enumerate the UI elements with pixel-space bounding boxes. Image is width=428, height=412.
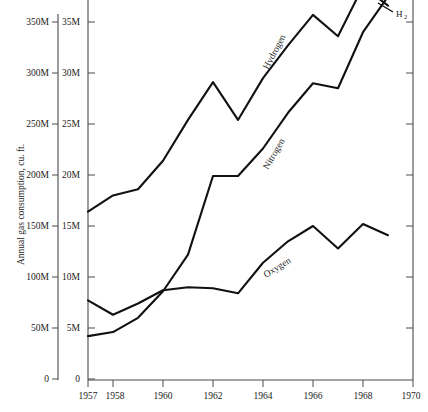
far-right-axis bbox=[406, 0, 413, 380]
left-tick-label-300M: 300M bbox=[26, 68, 49, 78]
x-tick-label-1970: 1970 bbox=[402, 391, 421, 401]
right-value-axis: 0 5M 10M 15M 20M 25M 30M 35M bbox=[62, 0, 95, 384]
gas-consumption-line-chart: 0 50M 100M 150M 200M 250M 300M 350M Annu… bbox=[0, 0, 428, 412]
x-tick-label-1964: 1964 bbox=[254, 391, 273, 401]
right-tick-label-35M: 35M bbox=[62, 17, 81, 27]
series-label-nitrogen: Nitrogen bbox=[261, 137, 287, 171]
x-tick-label-1958: 1958 bbox=[106, 391, 125, 401]
right-tick-label-20M: 20M bbox=[62, 170, 81, 180]
x-axis-ticks bbox=[88, 380, 413, 387]
right-tick-label-0: 0 bbox=[75, 374, 80, 384]
left-axis-ticks bbox=[52, 22, 58, 379]
y-axis-title: Annual gas consumption, cu. ft. bbox=[16, 144, 26, 265]
left-value-axis: 0 50M 100M 150M 200M 250M 300M 350M bbox=[26, 14, 58, 384]
inner-axis-ticks bbox=[88, 22, 95, 379]
data-series-group bbox=[88, 0, 388, 336]
left-tick-label-50M: 50M bbox=[31, 323, 50, 333]
right-tick-label-30M: 30M bbox=[62, 68, 81, 78]
left-tick-label-150M: 150M bbox=[26, 221, 49, 231]
year-axis: 1957 1958 1960 1962 1964 1966 1968 1970 bbox=[79, 380, 421, 401]
right-tick-label-10M: 10M bbox=[62, 272, 81, 282]
hydrogen-annotation: H 2 bbox=[378, 3, 407, 20]
right-tick-label-5M: 5M bbox=[67, 323, 81, 333]
left-tick-label-250M: 250M bbox=[26, 119, 49, 129]
right-tick-label-15M: 15M bbox=[62, 221, 81, 231]
x-tick-label-1968: 1968 bbox=[354, 391, 373, 401]
series-line-nitrogen bbox=[88, 0, 388, 336]
series-line-oxygen bbox=[88, 224, 388, 315]
annotation-label-h2-subscript: 2 bbox=[404, 13, 407, 20]
chart-svg: 0 50M 100M 150M 200M 250M 300M 350M Annu… bbox=[0, 0, 428, 412]
left-tick-label-100M: 100M bbox=[26, 272, 49, 282]
x-tick-label-1960: 1960 bbox=[154, 391, 173, 401]
x-tick-label-1962: 1962 bbox=[204, 391, 223, 401]
right-tick-label-25M: 25M bbox=[62, 119, 81, 129]
left-tick-label-0: 0 bbox=[44, 374, 49, 384]
left-tick-label-200M: 200M bbox=[26, 170, 49, 180]
x-tick-label-1957: 1957 bbox=[79, 391, 98, 401]
annotation-label-h2: H bbox=[396, 9, 403, 19]
x-tick-label-1966: 1966 bbox=[304, 391, 323, 401]
left-tick-label-350M: 350M bbox=[26, 17, 49, 27]
series-line-hydrogen bbox=[88, 0, 388, 212]
